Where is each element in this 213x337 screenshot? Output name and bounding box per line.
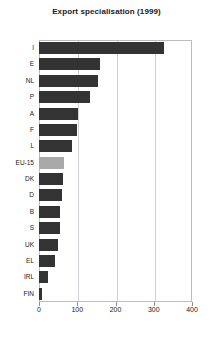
bar-row xyxy=(39,286,192,302)
bar-irl xyxy=(39,271,48,283)
x-axis-tick-labels: 0100200300400 xyxy=(0,306,213,320)
y-axis-label-dk: DK xyxy=(0,171,36,187)
bar-uk xyxy=(39,239,58,251)
y-axis-label-p: P xyxy=(0,89,36,105)
bar-el xyxy=(39,255,55,267)
bar-row xyxy=(39,187,192,203)
bar-a xyxy=(39,108,78,120)
y-axis-label-i: I xyxy=(0,40,36,56)
bar-row xyxy=(39,106,192,122)
x-axis-tick-label-0: 0 xyxy=(37,306,41,313)
bar-row xyxy=(39,171,192,187)
y-axis-category-labels: IENLPAFLEU-15DKDBSUKELIRLFIN xyxy=(0,40,36,302)
x-axis-tick-label-400: 400 xyxy=(186,306,198,313)
bar-row xyxy=(39,122,192,138)
bar-i xyxy=(39,42,164,54)
y-axis-label-uk: UK xyxy=(0,237,36,253)
y-axis-label-b: B xyxy=(0,204,36,220)
y-axis-label-fin: FIN xyxy=(0,286,36,302)
x-axis-tick-label-100: 100 xyxy=(71,306,83,313)
bar-row xyxy=(39,138,192,154)
x-axis-tick-label-300: 300 xyxy=(148,306,160,313)
chart-container: Export specialisation (1999) IENLPAFLEU-… xyxy=(0,0,213,337)
y-axis-label-l: L xyxy=(0,138,36,154)
y-axis-label-a: A xyxy=(0,106,36,122)
bar-s xyxy=(39,222,60,234)
bar-b xyxy=(39,206,60,218)
y-axis-label-nl: NL xyxy=(0,73,36,89)
bar-dk xyxy=(39,173,63,185)
bars-layer xyxy=(39,40,192,302)
chart-title: Export specialisation (1999) xyxy=(0,7,213,17)
bar-row xyxy=(39,220,192,236)
bar-fin xyxy=(39,288,42,300)
bar-row xyxy=(39,204,192,220)
y-axis-label-s: S xyxy=(0,220,36,236)
bar-row xyxy=(39,40,192,56)
y-axis-label-eu-15: EU-15 xyxy=(0,155,36,171)
x-axis-tick-label-200: 200 xyxy=(110,306,122,313)
y-axis-label-e: E xyxy=(0,56,36,72)
bar-d xyxy=(39,189,62,201)
bar-l xyxy=(39,140,72,152)
bar-p xyxy=(39,91,90,103)
bar-row xyxy=(39,269,192,285)
bar-f xyxy=(39,124,77,136)
y-axis-label-irl: IRL xyxy=(0,269,36,285)
bar-row xyxy=(39,155,192,171)
bar-eu-15 xyxy=(39,157,64,169)
bar-nl xyxy=(39,75,98,87)
y-axis-label-el: EL xyxy=(0,253,36,269)
bar-e xyxy=(39,58,100,70)
bar-row xyxy=(39,73,192,89)
y-axis-label-f: F xyxy=(0,122,36,138)
bar-row xyxy=(39,89,192,105)
bar-row xyxy=(39,253,192,269)
y-axis-label-d: D xyxy=(0,187,36,203)
bar-row xyxy=(39,56,192,72)
bar-row xyxy=(39,237,192,253)
